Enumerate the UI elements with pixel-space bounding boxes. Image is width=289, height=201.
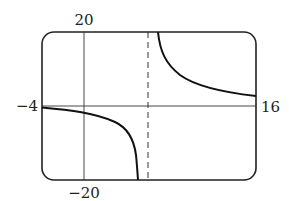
x-min-label: −4 bbox=[16, 97, 38, 115]
y-max-label: 20 bbox=[74, 11, 93, 29]
x-max-label: 16 bbox=[261, 98, 280, 116]
curve-right-branch bbox=[158, 32, 256, 96]
graph: 20 −20 −4 16 bbox=[0, 0, 289, 201]
curve-left-branch bbox=[42, 108, 138, 181]
y-min-label: −20 bbox=[68, 184, 100, 201]
